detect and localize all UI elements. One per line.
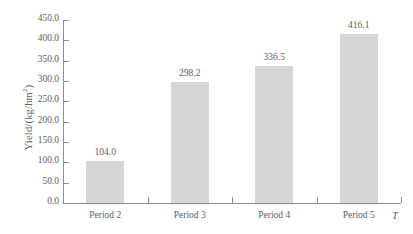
y-tick-label: 200.0 (38, 115, 59, 125)
y-tick-label: 50.0 (42, 176, 59, 186)
y-tick-mark (64, 183, 69, 184)
bar (86, 161, 124, 203)
category-label: Period 4 (234, 210, 314, 220)
y-tick-mark (64, 101, 69, 102)
y-tick: 50.0 (63, 183, 69, 184)
y-tick-mark (64, 81, 69, 82)
bar-chart: Yield/(kg/hm2) 450.0400.0350.0300.0250.0… (0, 0, 413, 234)
y-axis-title: Yield/(kg/hm2) (23, 48, 34, 188)
y-tick: 250.0 (63, 101, 69, 102)
y-tick-label: 350.0 (38, 54, 59, 64)
bar (340, 34, 378, 203)
y-tick-label: 450.0 (38, 13, 59, 23)
bar-value-label: 298.2 (160, 68, 220, 78)
x-tick-mark (232, 197, 233, 203)
bar (255, 66, 293, 203)
x-tick-mark (317, 197, 318, 203)
y-tick-mark (64, 61, 69, 62)
y-tick-mark (64, 142, 69, 143)
plot-area: 450.0400.0350.0300.0250.0200.0150.0100.0… (63, 20, 401, 203)
y-tick-label: 400.0 (38, 33, 59, 43)
y-tick: 0.0 (63, 203, 69, 204)
y-tick-label: 150.0 (38, 135, 59, 145)
y-axis-line (63, 20, 64, 203)
y-tick-mark (64, 162, 69, 163)
bar-value-label: 336.5 (244, 52, 304, 62)
y-tick-mark (64, 203, 69, 204)
y-tick: 300.0 (63, 81, 69, 82)
y-tick: 350.0 (63, 61, 69, 62)
y-axis-title-exponent: 2 (21, 88, 29, 92)
bar-value-label: 416.1 (329, 20, 389, 30)
y-tick-mark (64, 40, 69, 41)
y-tick-label: 250.0 (38, 94, 59, 104)
x-axis-line (63, 203, 401, 204)
bar (171, 82, 209, 203)
y-tick-label: 300.0 (38, 74, 59, 84)
category-label: Period 5 (319, 210, 399, 220)
x-axis-title: T (392, 210, 398, 221)
x-tick-mark (148, 197, 149, 203)
y-tick-mark (64, 122, 69, 123)
y-tick: 400.0 (63, 40, 69, 41)
y-tick-mark (64, 20, 69, 21)
y-axis-title-tail: ) (23, 85, 34, 89)
category-label: Period 2 (65, 210, 145, 220)
y-tick-label: 0.0 (47, 196, 59, 206)
bar-value-label: 104.0 (75, 147, 135, 157)
x-tick-mark (401, 197, 402, 203)
y-tick-label: 100.0 (38, 155, 59, 165)
y-tick: 200.0 (63, 122, 69, 123)
y-tick: 100.0 (63, 162, 69, 163)
y-tick: 450.0 (63, 20, 69, 21)
y-axis-title-main: Yield/(kg/hm (23, 92, 34, 150)
y-tick: 150.0 (63, 142, 69, 143)
category-label: Period 3 (150, 210, 230, 220)
